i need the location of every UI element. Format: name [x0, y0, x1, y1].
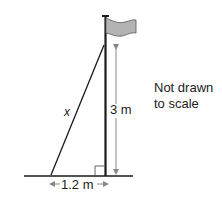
- hypotenuse-label: x: [64, 105, 70, 119]
- height-label: 3 m: [110, 103, 132, 117]
- rope-hypotenuse: [51, 45, 104, 175]
- scale-note-line1: Not drawn: [154, 80, 213, 96]
- scale-note: Not drawn to scale: [154, 80, 213, 112]
- base-label: 1.2 m: [61, 178, 94, 192]
- scale-note-line2: to scale: [154, 96, 213, 112]
- flag: [106, 18, 136, 36]
- right-angle-marker: [95, 166, 104, 175]
